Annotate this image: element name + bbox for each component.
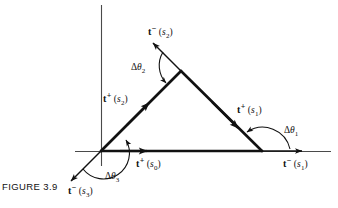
t-minus-s3-sign: − — [72, 183, 77, 192]
t-plus-s2-vector-symbol: t — [103, 93, 106, 104]
label-t-plus-s0: t+(s0) — [136, 157, 161, 172]
t-minus-s2-paren-close: ) — [169, 27, 172, 37]
label-dtheta3: Δθ3 — [105, 172, 119, 184]
t-minus-s3-paren-close: ) — [89, 186, 92, 196]
dtheta1-index: 1 — [295, 130, 299, 138]
t-plus-s1-sign: + — [241, 102, 246, 111]
t-plus-s1-arrow — [212, 102, 238, 128]
t-plus-s1-vector-symbol: t — [237, 104, 240, 115]
t-minus-s2-ray — [153, 43, 181, 71]
figure-3-9: t−(s2) t+(s2) t+(s1) t+(s0) t−(s1) t−(s3… — [0, 0, 338, 208]
exterior-rays-group — [71, 43, 302, 181]
t-minus-s2-vector-symbol: t — [148, 26, 151, 37]
label-t-plus-s1: t+(s1) — [237, 103, 262, 118]
t-plus-s0-vector-symbol: t — [136, 158, 139, 169]
figure-caption: FIGURE 3.9 — [2, 181, 58, 192]
t-minus-s3-vector-symbol: t — [68, 185, 71, 196]
t-plus-s2-sign: + — [107, 91, 112, 100]
label-t-minus-s3: t−(s3) — [68, 184, 93, 199]
dtheta3-index: 3 — [116, 176, 120, 184]
label-t-minus-s2: t−(s2) — [148, 25, 173, 40]
dtheta2-index: 2 — [142, 67, 146, 75]
dtheta2-arc — [159, 52, 166, 83]
t-minus-s1-paren-close: ) — [304, 159, 307, 169]
t-plus-s1-paren-close: ) — [258, 105, 261, 115]
t-plus-s0-paren-close: ) — [157, 159, 160, 169]
tangent-arrows-group — [120, 102, 238, 151]
t-minus-s1-vector-symbol: t — [283, 158, 286, 169]
t-plus-s0-sign: + — [140, 156, 145, 165]
label-t-minus-s1: t−(s1) — [283, 157, 308, 172]
label-t-plus-s2: t+(s2) — [103, 92, 128, 107]
t-minus-s3-ray — [71, 151, 101, 181]
t-minus-s2-sign: − — [152, 24, 157, 33]
label-dtheta2: Δθ2 — [131, 63, 145, 75]
t-minus-s1-sign: − — [287, 156, 292, 165]
axes-group — [75, 5, 331, 166]
label-dtheta1: Δθ1 — [284, 126, 298, 138]
t-plus-s2-paren-close: ) — [124, 94, 127, 104]
t-plus-s2-arrow — [127, 103, 149, 125]
